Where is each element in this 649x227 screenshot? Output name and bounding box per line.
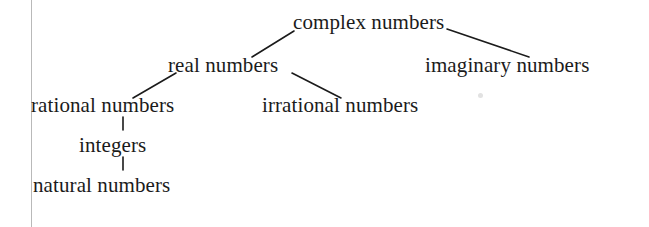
diagram-canvas: complex numbersreal numbersimaginary num… bbox=[0, 0, 649, 227]
scan-speck bbox=[478, 93, 483, 98]
node-irrational: irrational numbers bbox=[262, 95, 418, 116]
node-complex: complex numbers bbox=[293, 12, 444, 33]
node-imaginary: imaginary numbers bbox=[425, 55, 589, 76]
node-rational: rational numbers bbox=[31, 95, 174, 116]
node-real: real numbers bbox=[168, 55, 278, 76]
node-integers: integers bbox=[79, 135, 146, 156]
node-natural: natural numbers bbox=[33, 175, 170, 196]
